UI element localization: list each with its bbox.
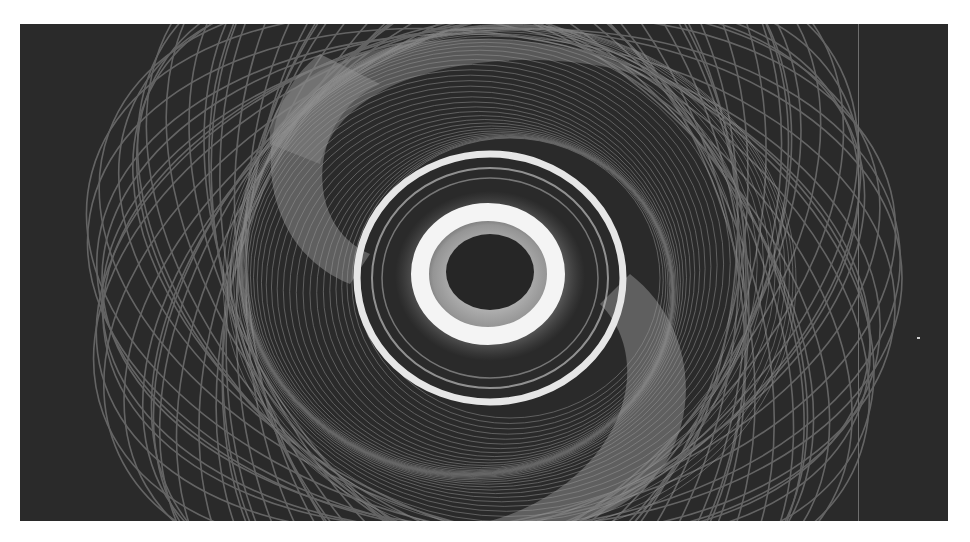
light-speck	[917, 337, 920, 339]
dark-core	[446, 234, 534, 310]
vertical-line	[858, 24, 859, 521]
spiral-artwork	[20, 24, 948, 521]
spiral-photograph	[20, 24, 948, 521]
